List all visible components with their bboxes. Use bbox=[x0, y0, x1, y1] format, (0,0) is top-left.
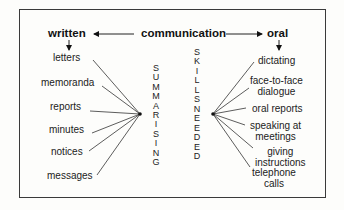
summarising-vertical-text: SUMMARISING bbox=[151, 64, 161, 167]
oral-item-telephone-calls: telephonecalls bbox=[252, 167, 296, 189]
oral-item-oral-reports: oral reports bbox=[252, 103, 303, 114]
oral-item-speaking-at-meetings: speaking atmeetings bbox=[250, 120, 301, 142]
communication-title: communication bbox=[141, 27, 226, 39]
oral-item-dictating: dictating bbox=[258, 55, 295, 66]
right-convergence-dot bbox=[211, 112, 215, 116]
left-convergence-dot bbox=[138, 112, 142, 116]
written-item-letters: letters bbox=[53, 52, 80, 63]
oral-item-giving-instructions: givinginstructions bbox=[255, 146, 306, 168]
written-heading: written bbox=[48, 27, 86, 39]
written-item-memoranda: memoranda bbox=[41, 77, 94, 88]
written-item-messages: messages bbox=[47, 170, 93, 181]
needed-vertical-text: NEEDED bbox=[192, 105, 202, 161]
oral-heading: oral bbox=[267, 27, 288, 39]
written-item-notices: notices bbox=[51, 146, 83, 157]
oral-item-face-to-face-dialogue: face-to-facedialogue bbox=[250, 75, 303, 97]
written-item-reports: reports bbox=[50, 101, 81, 112]
written-item-minutes: minutes bbox=[49, 124, 84, 135]
skills-vertical-text: SKILLS bbox=[192, 48, 202, 104]
